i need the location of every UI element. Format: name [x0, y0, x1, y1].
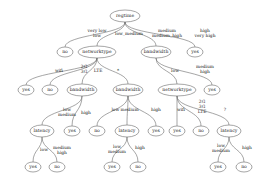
edge-label: mediumhigh: [53, 145, 72, 155]
svg-text:medium: medium: [108, 149, 127, 154]
svg-text:LTE: LTE: [198, 109, 207, 114]
tree-node-no: no: [193, 126, 209, 136]
tree-node-yes: yes: [64, 126, 80, 136]
svg-text:bandwidth: bandwidth: [116, 87, 141, 92]
tree-node-no: no: [236, 162, 252, 172]
svg-text:no: no: [241, 164, 247, 169]
svg-text:wifi: wifi: [55, 68, 63, 73]
svg-text:medium: medium: [58, 112, 77, 117]
edge-label: low_medium: [115, 31, 144, 37]
tree-node-networktype: networktype: [158, 84, 196, 96]
svg-text:bandwidth: bandwidth: [70, 87, 95, 92]
tree-node-no: no: [42, 85, 58, 95]
svg-text:low_medium: low_medium: [115, 31, 144, 37]
tree-node-yes: yes: [210, 162, 226, 172]
svg-text:very high: very high: [194, 33, 216, 38]
edge-label: wifi: [55, 68, 63, 73]
svg-text:*: *: [117, 68, 120, 73]
edge-label: low: [171, 68, 179, 73]
svg-text:no: no: [47, 87, 53, 92]
edge-label: lowmedium: [212, 143, 231, 153]
tree-node-yes: yes: [148, 126, 164, 136]
svg-text:wifi: wifi: [177, 107, 185, 112]
tree-node-yes: yes: [104, 162, 120, 172]
edge-label: lowmedium: [58, 107, 77, 117]
edge-label: *: [117, 68, 120, 73]
tree-node-yes: yes: [169, 126, 185, 136]
svg-text:low: low: [93, 33, 101, 38]
tree-node-bandwidth: bandwidth: [67, 84, 97, 96]
svg-text:3G: 3G: [81, 69, 88, 74]
tree-node-yes: yes: [204, 85, 220, 95]
svg-text:LTE: LTE: [94, 68, 103, 73]
svg-text:high: high: [81, 110, 91, 115]
svg-text:high: high: [242, 145, 252, 150]
tree-node-latency: latency: [30, 125, 54, 137]
edge-label: wifi: [177, 107, 185, 112]
edge-label: mediummedium_high: [152, 28, 182, 39]
tree-node-yes: yes: [187, 47, 203, 57]
svg-text:?: ?: [224, 107, 227, 112]
decision-tree-diagram: very lowlowlow_mediummediummedium_highhi…: [0, 0, 267, 184]
tree-node-no: no: [130, 162, 146, 172]
edge-label: low: [40, 147, 48, 152]
tree-node-latency: latency: [115, 125, 139, 137]
tree-node-networktype: networktype: [78, 46, 116, 58]
svg-text:high: high: [135, 145, 145, 150]
svg-text:high: high: [151, 107, 161, 112]
svg-text:low: low: [40, 147, 48, 152]
tree-node-latency: latency: [217, 125, 241, 137]
svg-text:no: no: [62, 49, 68, 54]
svg-text:high: high: [200, 69, 210, 74]
svg-text:low: low: [171, 68, 179, 73]
edge-label: ?: [224, 107, 227, 112]
svg-text:low medium: low medium: [111, 107, 139, 112]
tree-node-regtime: regtime: [110, 10, 140, 22]
tree-node-no: no: [49, 162, 65, 172]
svg-text:no: no: [94, 128, 100, 133]
tree-node-bandwidth: bandwidth: [113, 84, 143, 96]
tree-node-bandwidth: bandwidth: [141, 46, 171, 58]
edge-label: LTE: [94, 68, 103, 73]
edge-label: high: [81, 110, 91, 115]
edge-label: low medium: [111, 107, 139, 112]
edge-label: high: [151, 107, 161, 112]
tree-node-yes: yes: [18, 85, 34, 95]
tree-edge: [42, 96, 82, 125]
svg-text:high: high: [57, 150, 67, 155]
edge-label: high: [135, 145, 145, 150]
svg-text:medium: medium: [212, 148, 231, 153]
edge-label: mediumhigh: [196, 64, 215, 74]
svg-text:bandwidth: bandwidth: [144, 49, 169, 54]
edge-label: 2G3G: [81, 64, 88, 74]
edge-label: high: [242, 145, 252, 150]
tree-node-yes: yes: [25, 162, 41, 172]
svg-text:no: no: [135, 164, 141, 169]
tree-node-no: no: [57, 47, 73, 57]
edge-label: 2G3GLTE: [198, 99, 207, 114]
tree-node-no: no: [89, 126, 105, 136]
svg-text:no: no: [198, 128, 204, 133]
edge-label: highvery high: [194, 28, 216, 38]
svg-text:no: no: [54, 164, 60, 169]
